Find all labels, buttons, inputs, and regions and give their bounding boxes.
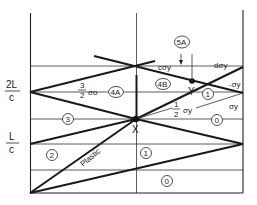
three-halves-num: 3 [80, 81, 85, 90]
svg-text:1: 1 [144, 149, 149, 158]
label-2L-den: c [9, 92, 14, 103]
svg-text:4B: 4B [158, 80, 168, 89]
svg-text:2: 2 [50, 151, 55, 160]
reflected-wave-1 [136, 119, 243, 144]
point-X-label: X [132, 124, 139, 135]
region-4A: 4A [109, 87, 124, 98]
arrow-5A-head-icon [179, 60, 183, 65]
half-num: 1 [174, 100, 179, 109]
region-1-right: 1 [203, 89, 214, 100]
label-L-den: c [9, 144, 14, 155]
half-den: 2 [174, 110, 179, 119]
c-sigma-y-label: cσy [158, 63, 171, 72]
wave-L-c-to-X [30, 119, 136, 144]
region-2: 2 [47, 150, 58, 161]
region-4B: 4B [156, 79, 171, 90]
svg-text:3: 3 [66, 115, 71, 124]
three-halves-den: 2 [80, 91, 85, 100]
neg-sigma-y-label: -σy [229, 80, 241, 89]
region-0-right: 0 [212, 115, 223, 126]
sigma-y-right-label: σy [229, 102, 238, 111]
d-sigma-y-label: dσy [214, 61, 227, 70]
region-5A: 5A [175, 36, 190, 48]
half-sigma-y-label: σy [183, 106, 192, 115]
point-Y-label: Y [188, 86, 195, 97]
svg-text:4A: 4A [111, 88, 121, 97]
region-0-bottom: 0 [162, 176, 173, 187]
svg-text:1: 1 [206, 90, 211, 99]
svg-text:5A: 5A [177, 38, 187, 47]
svg-text:0: 0 [165, 177, 170, 186]
label-2L: 2L [6, 79, 18, 90]
wave-diagram: X Y 2L c L c 0 1 2 3 0 1 4A 4B [0, 0, 257, 205]
point-X-dot [133, 116, 139, 122]
sigma-o-label: σo [88, 88, 98, 97]
label-L: L [9, 131, 15, 142]
region-1-mid: 1 [141, 148, 152, 159]
plastic-wave [30, 119, 136, 193]
svg-text:0: 0 [215, 116, 220, 125]
region-3: 3 [63, 114, 74, 125]
